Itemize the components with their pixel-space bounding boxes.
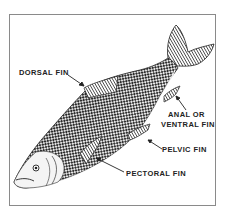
- label-anal-fin-line2: VENTRAL FIN: [161, 120, 215, 129]
- tail-fin: [167, 25, 214, 66]
- label-anal-fin-line1: ANAL OR: [168, 110, 205, 119]
- fish-illustration: [0, 0, 227, 215]
- label-pectoral-fin: PECTORAL FIN: [126, 169, 186, 178]
- label-pelvic-fin: PELVIC FIN: [162, 145, 207, 154]
- label-dorsal-fin: DORSAL FIN: [19, 68, 69, 77]
